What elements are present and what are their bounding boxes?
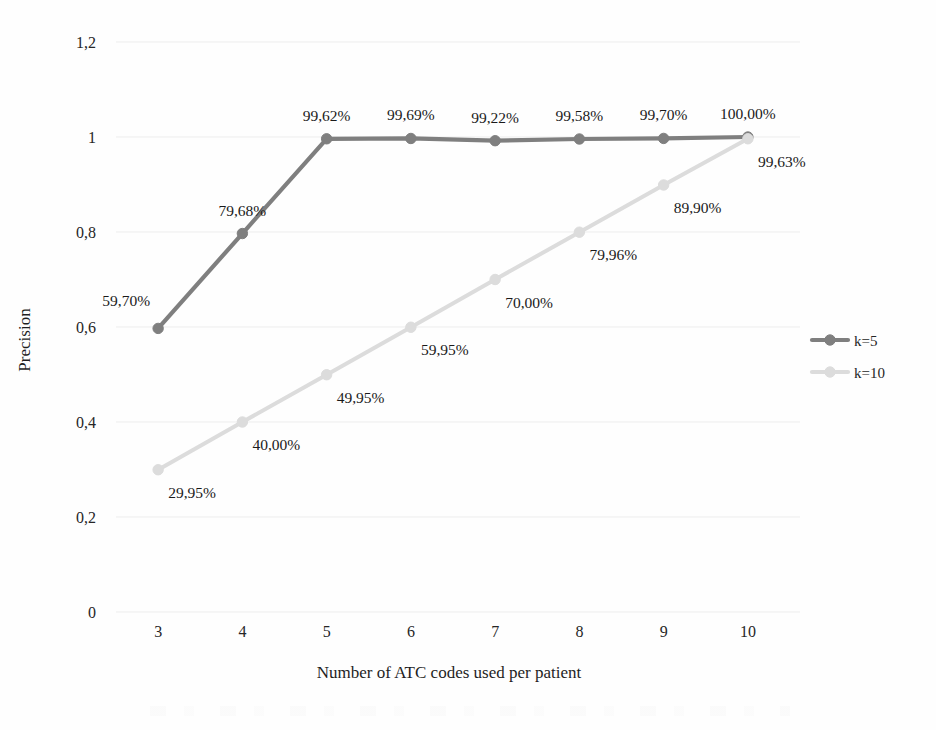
y-tick-label: 0,4 — [76, 414, 96, 431]
data-point-label: 99,62% — [303, 107, 351, 124]
data-point-label: 79,68% — [218, 202, 266, 219]
x-tick-label: 7 — [491, 623, 499, 640]
x-tick-label: 5 — [323, 623, 331, 640]
data-point-marker — [237, 228, 247, 238]
x-tick-label: 8 — [575, 623, 583, 640]
x-tick-label: 6 — [407, 623, 415, 640]
y-tick-label: 0,6 — [76, 319, 96, 336]
x-axis-tick-labels: 345678910 — [154, 623, 756, 640]
data-point-label: 99,70% — [640, 106, 688, 123]
data-point-marker — [153, 323, 163, 333]
x-tick-label: 9 — [660, 623, 668, 640]
data-point-label: 29,95% — [168, 484, 216, 501]
data-point-label: 89,90% — [674, 199, 722, 216]
data-point-label: 59,70% — [102, 292, 150, 309]
data-point-label: 49,95% — [337, 389, 385, 406]
legend: k=5k=10 — [812, 333, 885, 381]
data-point-marker — [406, 133, 416, 143]
x-tick-label: 10 — [740, 623, 756, 640]
x-tick-label: 3 — [154, 623, 162, 640]
legend-label-k=5: k=5 — [854, 333, 877, 349]
scan-artifact — [150, 706, 790, 716]
precision-line-chart: 00,20,40,60,811,2 345678910 59,70%79,68%… — [0, 0, 936, 730]
chart-figure: 00,20,40,60,811,2 345678910 59,70%79,68%… — [0, 0, 936, 730]
data-point-marker — [574, 134, 584, 144]
data-point-marker — [490, 136, 500, 146]
y-tick-label: 1 — [88, 129, 96, 146]
legend-marker — [825, 335, 835, 345]
data-point-label: 59,95% — [421, 341, 469, 358]
data-point-label: 70,00% — [505, 294, 553, 311]
y-axis-tick-labels: 00,20,40,60,811,2 — [76, 34, 96, 621]
data-point-label: 79,96% — [589, 246, 637, 263]
data-point-label: 99,63% — [758, 153, 806, 170]
data-point-marker — [406, 322, 416, 332]
data-point-label: 99,69% — [387, 106, 435, 123]
y-tick-label: 1,2 — [76, 34, 96, 51]
data-point-label: 40,00% — [252, 436, 300, 453]
data-point-marker — [743, 134, 753, 144]
legend-label-k=10: k=10 — [854, 365, 885, 381]
x-tick-label: 4 — [238, 623, 246, 640]
data-point-marker — [237, 417, 247, 427]
data-point-label: 99,58% — [555, 107, 603, 124]
data-point-marker — [658, 133, 668, 143]
y-tick-label: 0,8 — [76, 224, 96, 241]
data-point-label: 100,00% — [720, 105, 776, 122]
legend-marker — [825, 367, 835, 377]
gridlines — [116, 42, 800, 612]
y-tick-label: 0,2 — [76, 509, 96, 526]
data-point-marker — [153, 465, 163, 475]
data-point-marker — [321, 370, 331, 380]
data-point-label: 99,22% — [471, 109, 519, 126]
x-axis-title: Number of ATC codes used per patient — [317, 663, 582, 682]
data-point-marker — [658, 180, 668, 190]
data-point-marker — [574, 227, 584, 237]
y-axis-title: Precision — [15, 308, 34, 372]
data-point-marker — [490, 274, 500, 284]
y-tick-label: 0 — [88, 604, 96, 621]
data-point-marker — [321, 134, 331, 144]
